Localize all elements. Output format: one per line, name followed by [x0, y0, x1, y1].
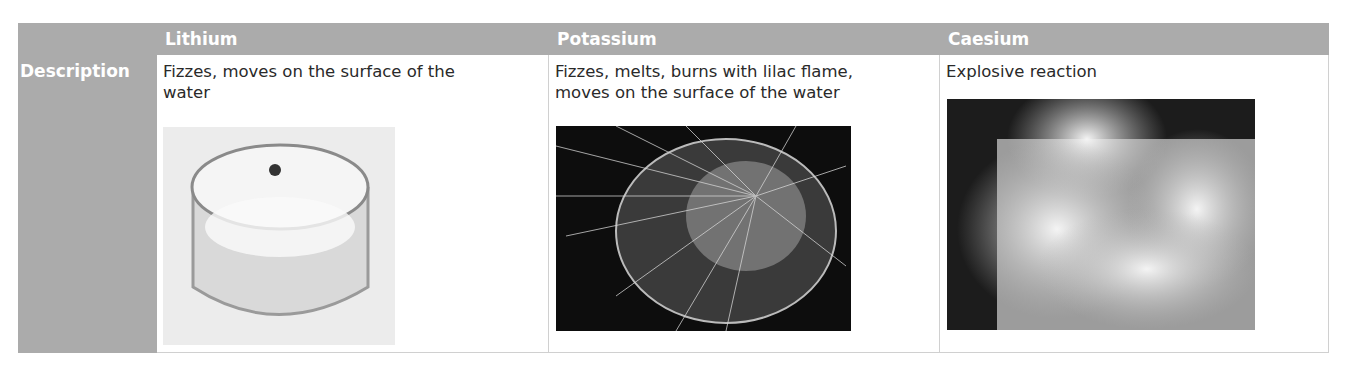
cell-potassium: Fizzes, melts, burns with lilac flame, m…: [549, 55, 940, 353]
cell-lithium: Fizzes, moves on the surface of the wate…: [157, 55, 549, 353]
column-header-label: Potassium: [557, 23, 657, 55]
lithium-description: Fizzes, moves on the surface of the wate…: [163, 61, 503, 103]
potassium-in-water-photo: [556, 126, 851, 331]
caesium-in-water-photo: [947, 99, 1255, 330]
potassium-description: Fizzes, melts, burns with lilac flame, m…: [555, 61, 895, 103]
lithium-in-water-photo: [163, 127, 395, 345]
column-header-potassium: Potassium: [549, 23, 940, 55]
column-header-caesium: Caesium: [940, 23, 1329, 55]
cell-caesium: Explosive reaction: [940, 55, 1329, 353]
row-header-description: Description: [18, 55, 157, 353]
column-header-label: Lithium: [165, 23, 238, 55]
alkali-metals-table: Lithium Potassium Caesium Description Fi…: [18, 23, 1329, 353]
corner-header: [18, 23, 157, 55]
caesium-description: Explosive reaction: [946, 61, 1286, 82]
column-header-lithium: Lithium: [157, 23, 549, 55]
column-header-label: Caesium: [948, 23, 1029, 55]
row-header-label: Description: [20, 61, 130, 81]
